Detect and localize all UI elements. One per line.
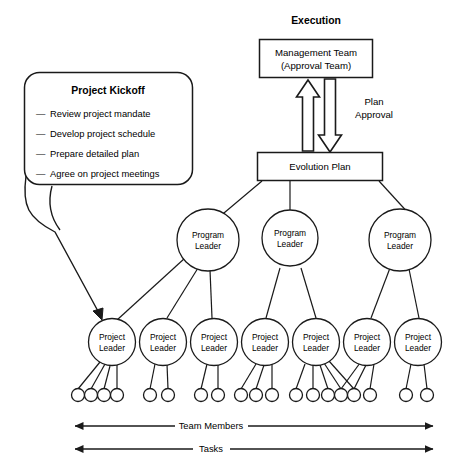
kickoff-item-3-bullet: — — [36, 148, 46, 159]
team-member-circle[interactable] — [111, 389, 124, 402]
project-leader-7-line1: Project — [405, 332, 432, 342]
team-member-circle[interactable] — [348, 389, 361, 402]
team-member-circle[interactable] — [307, 389, 320, 402]
project-leader-circle-2 — [140, 319, 187, 366]
program-leader-3-line2: Leader — [387, 241, 413, 251]
project-leader-4-line1: Project — [252, 332, 279, 342]
team-member-circle[interactable] — [421, 389, 434, 402]
program-leader-1-line1: Program — [192, 230, 224, 240]
team-member-circle[interactable] — [72, 389, 85, 402]
project-leader-node[interactable]: Project Leader — [242, 319, 289, 366]
team-member-circle[interactable] — [85, 389, 98, 402]
project-leader-2-line2: Leader — [150, 343, 176, 353]
project-leader-5-line1: Project — [303, 332, 330, 342]
project-leader-node[interactable]: Project Leader — [293, 319, 340, 366]
project-leader-node[interactable]: Project Leader — [89, 319, 136, 366]
project-leader-4-line2: Leader — [252, 343, 278, 353]
program-leader-3-line1: Program — [384, 230, 416, 240]
management-team-box[interactable]: Management Team (Approval Team) — [260, 40, 373, 78]
team-member-circle[interactable] — [235, 389, 248, 402]
program-leader-1-line2: Leader — [195, 241, 221, 251]
team-member-circle[interactable] — [364, 389, 377, 402]
team-member-circle[interactable] — [212, 389, 225, 402]
program-leader-circle-2 — [262, 210, 318, 266]
execution-title: Execution — [291, 15, 341, 26]
kickoff-item-1-bullet: — — [36, 108, 46, 119]
program-leader-node[interactable]: Program Leader — [262, 210, 318, 266]
team-member-circle[interactable] — [290, 389, 303, 402]
management-team-label-line1: Management Team — [275, 47, 357, 58]
project-leader-circle-1 — [89, 319, 136, 366]
project-leader-node[interactable]: Project Leader — [191, 319, 238, 366]
project-leader-circle-3 — [191, 319, 238, 366]
program-leader-circle-1 — [177, 209, 239, 271]
team-member-circle[interactable] — [98, 389, 111, 402]
kickoff-item-3-label: Prepare detailed plan — [50, 148, 139, 159]
tasks-label: Tasks — [199, 443, 223, 454]
kickoff-item-4-label: Agree on project meetings — [50, 168, 160, 179]
project-leader-1-line2: Leader — [99, 343, 125, 353]
project-leader-3-line1: Project — [201, 332, 228, 342]
program-leader-2-line2: Leader — [277, 239, 303, 249]
team-member-circle[interactable] — [400, 389, 413, 402]
project-leader-circle-5 — [293, 319, 340, 366]
team-member-circle[interactable] — [195, 389, 208, 402]
management-team-label-line2: (Approval Team) — [281, 60, 351, 71]
plan-approval-label-line2: Approval — [355, 109, 393, 120]
kickoff-item-2-bullet: — — [36, 128, 46, 139]
project-leader-node[interactable]: Project Leader — [344, 319, 391, 366]
team-member-circle[interactable] — [162, 389, 175, 402]
team-member-circle[interactable] — [266, 389, 279, 402]
team-member-circle[interactable] — [322, 389, 335, 402]
project-leader-6-line1: Project — [354, 332, 381, 342]
project-leader-6-line2: Leader — [354, 343, 380, 353]
team-member-circle[interactable] — [335, 389, 348, 402]
team-member-circle[interactable] — [144, 389, 157, 402]
program-leader-2-line1: Program — [274, 228, 306, 238]
org-structure-diagram: Execution Management Team (Approval Team… — [0, 0, 457, 473]
kickoff-item-2-label: Develop project schedule — [50, 128, 155, 139]
project-leader-circle-4 — [242, 319, 289, 366]
project-leader-2-line1: Project — [150, 332, 177, 342]
team-member-circle[interactable] — [250, 389, 263, 402]
project-leader-node[interactable]: Project Leader — [140, 319, 187, 366]
project-leader-3-line2: Leader — [201, 343, 227, 353]
program-leader-circle-3 — [369, 209, 431, 271]
plan-approval-label-line1: Plan — [364, 96, 383, 107]
project-leader-7-line2: Leader — [405, 343, 431, 353]
program-leader-node[interactable]: Program Leader — [369, 209, 431, 271]
evolution-plan-box[interactable]: Evolution Plan — [258, 153, 383, 181]
project-kickoff-callout[interactable]: Project Kickoff — Review project mandate… — [25, 73, 193, 185]
program-leader-node[interactable]: Program Leader — [177, 209, 239, 271]
project-leader-circle-7 — [395, 319, 442, 366]
kickoff-item-4-bullet: — — [36, 168, 46, 179]
project-leader-circle-6 — [344, 319, 391, 366]
project-leader-node[interactable]: Project Leader — [395, 319, 442, 366]
kickoff-heading: Project Kickoff — [71, 85, 145, 96]
team-members-label: Team Members — [179, 420, 244, 431]
evolution-plan-label: Evolution Plan — [289, 161, 350, 172]
management-team-rect — [260, 40, 373, 78]
kickoff-item-1-label: Review project mandate — [50, 108, 151, 119]
project-leader-5-line2: Leader — [303, 343, 329, 353]
project-leader-1-line1: Project — [99, 332, 126, 342]
